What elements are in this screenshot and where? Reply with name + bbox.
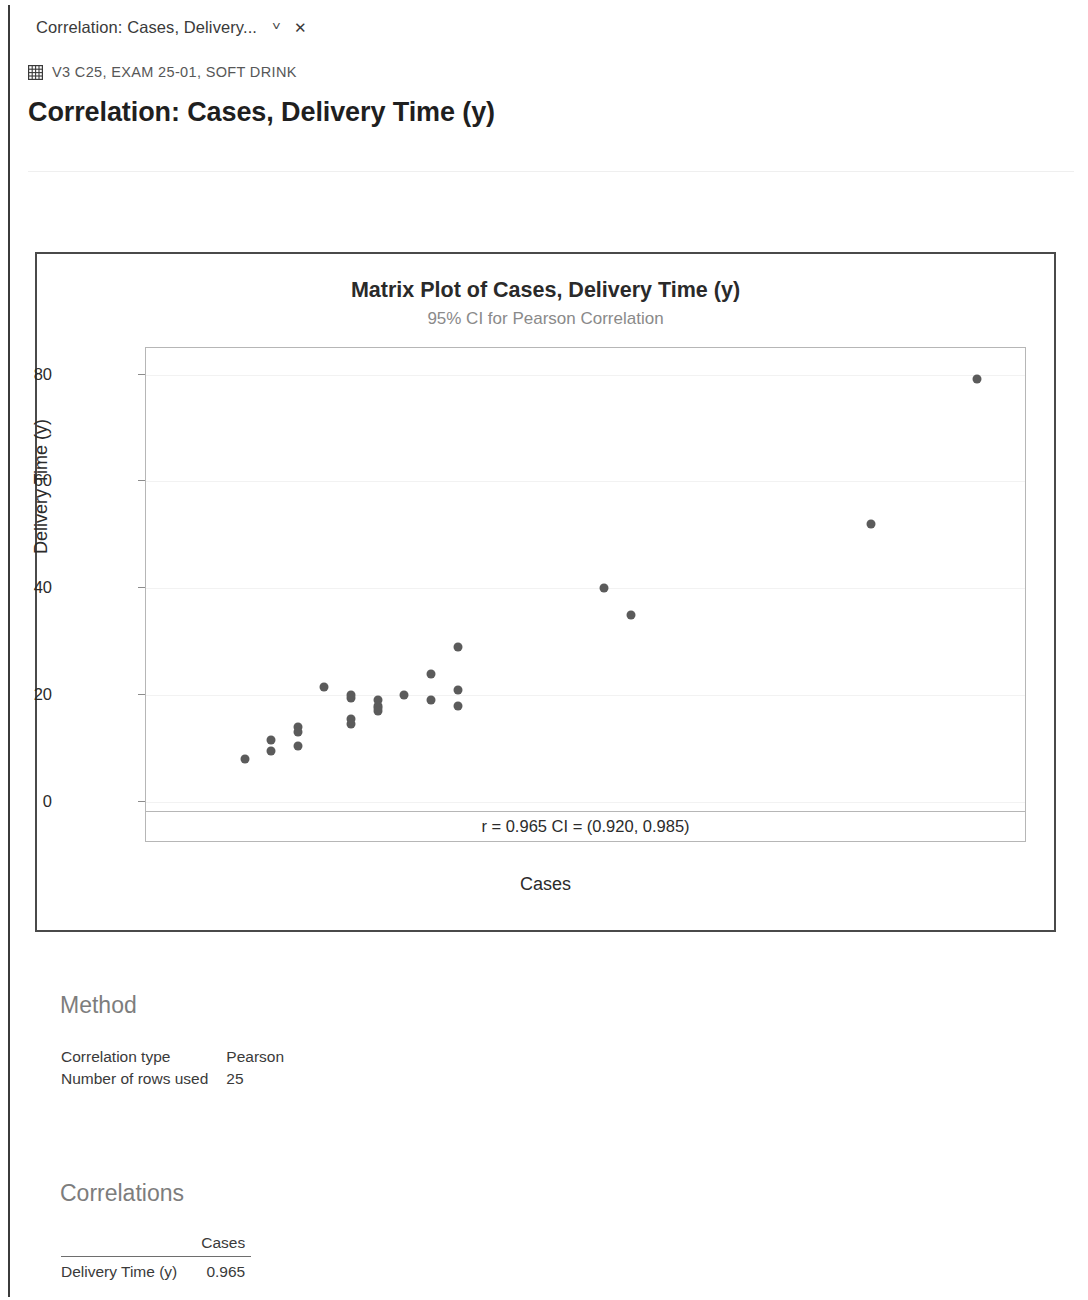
y-tick-label: 20 [0,684,52,703]
output-tab[interactable]: Correlation: Cases, Delivery... ˅ ✕ [24,12,315,42]
scatter-point [267,736,276,745]
table-row: Delivery Time (y) 0.965 [61,1257,251,1284]
y-tick-mark [138,480,145,481]
gridline [146,375,1025,376]
table-row: Number of rows used 25 [61,1068,284,1090]
page-title: Correlation: Cases, Delivery Time (y) [28,97,495,128]
scatter-point [427,669,436,678]
chart-subtitle: 95% CI for Pearson Correlation [37,309,1054,329]
cell-correlation-value: 0.965 [183,1257,251,1284]
method-value: Pearson [226,1046,284,1068]
scatter-point [400,690,409,699]
scatter-point [320,682,329,691]
output-tab-label: Correlation: Cases, Delivery... [36,18,257,37]
row-label-delivery-time: Delivery Time (y) [61,1257,183,1284]
breadcrumb-label: V3 C25, EXAM 25-01, SOFT DRINK [52,64,297,80]
x-axis-title: Cases [37,874,1054,895]
scatter-point [626,610,635,619]
y-tick-label: 60 [0,471,52,490]
chart-title: Matrix Plot of Cases, Delivery Time (y) [37,278,1054,303]
gridline [146,588,1025,589]
table-row: Correlation type Pearson [61,1046,284,1068]
chevron-down-icon[interactable]: ˅ [272,21,281,33]
scatter-point [453,701,462,710]
scatter-point [973,374,982,383]
gridline [146,695,1025,696]
tabstrip: Correlation: Cases, Delivery... ˅ ✕ [10,6,1080,42]
y-tick-mark [138,694,145,695]
y-tick-mark [138,801,145,802]
correlations-heading: Correlations [60,1180,184,1207]
scatter-point [600,584,609,593]
y-tick-label: 40 [0,578,52,597]
y-tick-label: 0 [0,791,52,810]
worksheet-grid-icon [28,65,43,80]
scatter-point [293,741,302,750]
y-tick-mark [138,374,145,375]
scatter-point [866,520,875,529]
graph-container[interactable]: Matrix Plot of Cases, Delivery Time (y) … [35,252,1056,932]
correlations-table: Cases Delivery Time (y) 0.965 [61,1232,251,1283]
table-header-row: Cases [61,1232,251,1257]
scatter-point [373,706,382,715]
method-table: Correlation type Pearson Number of rows … [61,1046,284,1090]
method-key: Correlation type [61,1046,226,1068]
scatter-point [293,728,302,737]
ci-band: r = 0.965 CI = (0.920, 0.985) [145,811,1026,842]
method-value: 25 [226,1068,284,1090]
breadcrumb: V3 C25, EXAM 25-01, SOFT DRINK [28,64,297,80]
corner-cell [61,1232,183,1257]
title-divider [28,171,1074,172]
scatter-point [347,720,356,729]
scatter-point [347,690,356,699]
close-icon[interactable]: ✕ [294,20,307,35]
scatter-point [453,685,462,694]
gridline [146,481,1025,482]
scatter-point [267,746,276,755]
y-tick-mark [138,587,145,588]
method-key: Number of rows used [61,1068,226,1090]
gridline [146,802,1025,803]
method-heading: Method [60,992,137,1019]
scatter-point [453,642,462,651]
column-header-cases: Cases [183,1232,251,1257]
y-tick-label: 80 [0,364,52,383]
ci-annotation: r = 0.965 CI = (0.920, 0.985) [481,817,689,836]
scatter-point [240,754,249,763]
scatter-point [427,696,436,705]
plot-area [145,347,1026,816]
